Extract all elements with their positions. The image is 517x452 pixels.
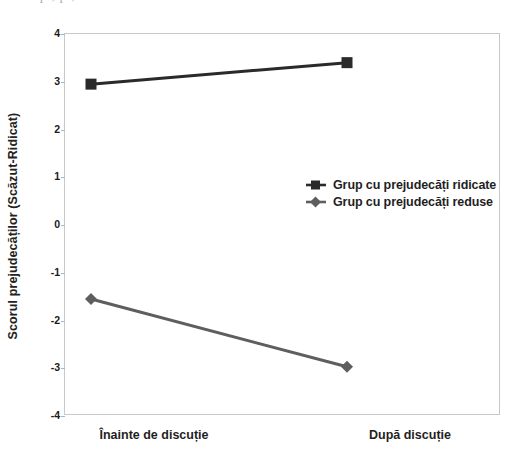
clipped-text-above-figure: o p , p , bbox=[0, 0, 517, 11]
legend-item-low: Grup cu prejudecăți reduse bbox=[305, 195, 496, 209]
y-tick-label: 2 bbox=[30, 123, 60, 135]
y-tick-label: 3 bbox=[30, 75, 60, 87]
series-line bbox=[91, 63, 347, 84]
chart-figure: o p , p , Scorul prejudecăților (Scăzut-… bbox=[0, 0, 517, 452]
legend-item-high: Grup cu prejudecăți ridicate bbox=[305, 178, 496, 192]
chart-legend: Grup cu prejudecăți ridicate Grup cu pre… bbox=[305, 178, 496, 209]
data-point-square bbox=[86, 79, 97, 90]
y-tick-label: -1 bbox=[30, 266, 60, 278]
y-tick-label: 0 bbox=[30, 218, 60, 230]
y-tick-label: -4 bbox=[30, 409, 60, 421]
y-axis-title: Scorul prejudecăților (Scăzut-Ridicat) bbox=[0, 0, 26, 452]
plot-series-canvas bbox=[65, 34, 501, 416]
y-tick-label: 4 bbox=[30, 27, 60, 39]
data-point-square bbox=[342, 57, 353, 68]
plot-area bbox=[64, 33, 500, 415]
data-point-diamond bbox=[341, 361, 353, 373]
legend-key-diamond-icon bbox=[305, 196, 327, 208]
y-tick-label: -3 bbox=[30, 361, 60, 373]
legend-label-high: Grup cu prejudecăți ridicate bbox=[333, 178, 496, 192]
series-line bbox=[91, 299, 347, 367]
legend-label-low: Grup cu prejudecăți reduse bbox=[333, 195, 493, 209]
x-axis-tick-labels: Înainte de discuție După discuție bbox=[64, 428, 500, 450]
legend-key-square-icon bbox=[305, 179, 327, 191]
data-point-diamond bbox=[85, 293, 97, 305]
x-tick-label-before: Înainte de discuție bbox=[99, 428, 208, 442]
y-tick-label: 1 bbox=[30, 170, 60, 182]
y-tick-mark bbox=[61, 416, 65, 417]
y-tick-label: -2 bbox=[30, 314, 60, 326]
y-axis-tick-labels: 4 3 2 1 0 -1 -2 -3 -4 bbox=[30, 0, 60, 452]
x-tick-label-after: După discuție bbox=[369, 428, 451, 442]
